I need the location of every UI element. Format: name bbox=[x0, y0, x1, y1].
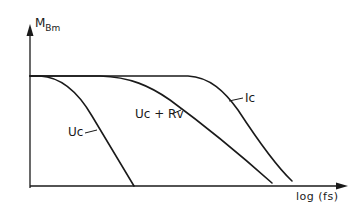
curve-uc-rv bbox=[30, 76, 272, 183]
x-axis-label: log (fs) bbox=[296, 191, 338, 202]
curve-label-uc: Uc bbox=[68, 126, 83, 138]
curve-label-uc-rv: Uc + Rv bbox=[135, 108, 184, 120]
y-axis-arrow-icon bbox=[27, 24, 34, 36]
curve-label-ic: Ic bbox=[245, 92, 255, 104]
y-axis-label: MBm bbox=[35, 17, 60, 29]
leader-uc bbox=[85, 130, 97, 133]
leader-ic bbox=[229, 98, 243, 101]
x-axis-arrow-icon bbox=[336, 183, 348, 190]
